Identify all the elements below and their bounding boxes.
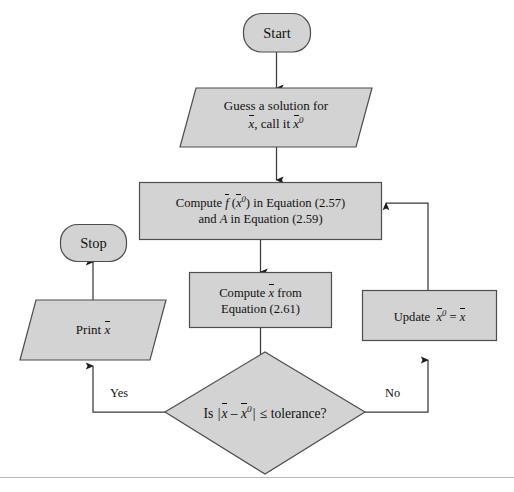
- node-start[interactable]: [244, 14, 311, 53]
- node-print[interactable]: [20, 300, 166, 360]
- edge-label-yes: Yes: [110, 386, 128, 401]
- node-stop[interactable]: [61, 225, 127, 262]
- edge-update-to-compute-f: [386, 203, 428, 290]
- node-update[interactable]: [363, 291, 497, 341]
- page-bottom-rule: [0, 477, 514, 478]
- flowchart-graphic: [0, 0, 514, 492]
- node-guess[interactable]: [180, 88, 372, 147]
- flowchart-canvas: Start Guess a solution for x, call it x0…: [0, 0, 514, 492]
- node-compute-f[interactable]: [140, 183, 382, 240]
- edge-decision-to-print: [93, 366, 165, 412]
- node-decision[interactable]: [165, 352, 365, 474]
- node-compute-x[interactable]: [190, 273, 332, 328]
- edge-label-no: No: [385, 386, 400, 401]
